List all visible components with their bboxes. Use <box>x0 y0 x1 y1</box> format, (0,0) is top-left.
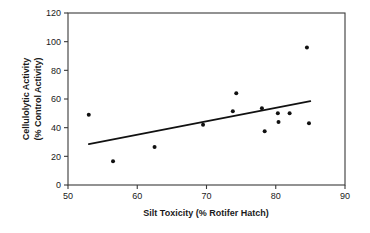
plot-area-background <box>68 13 345 185</box>
y-tick-label: 120 <box>46 8 61 18</box>
scatter-point <box>277 120 281 124</box>
x-tick-label: 80 <box>271 191 281 201</box>
x-tick-label: 70 <box>201 191 211 201</box>
y-tick-label: 60 <box>51 94 61 104</box>
scatter-point <box>307 121 311 125</box>
y-axis-title-line-2: (% Control Activity) <box>33 57 43 140</box>
scatter-point <box>201 123 205 127</box>
scatter-point <box>263 129 267 133</box>
x-axis-title: Silt Toxicity (% Rotifer Hatch) <box>143 208 268 218</box>
x-tick-label: 90 <box>340 191 350 201</box>
scatter-point <box>276 111 280 115</box>
scatter-point <box>111 159 115 163</box>
scatter-point <box>231 109 235 113</box>
y-tick-label: 100 <box>46 37 61 47</box>
scatter-point <box>305 45 309 49</box>
scatter-point <box>153 145 157 149</box>
scatter-point <box>260 106 264 110</box>
y-axis-title-line-1: Cellulolytic Activity <box>21 58 31 141</box>
y-tick-label: 0 <box>56 180 61 190</box>
x-tick-label: 50 <box>63 191 73 201</box>
scatter-chart-figure: 020406080100120 5060708090 Silt Toxicity… <box>0 0 370 233</box>
y-tick-label: 20 <box>51 152 61 162</box>
y-tick-label: 80 <box>51 66 61 76</box>
scatter-point <box>234 91 238 95</box>
x-tick-label: 60 <box>132 191 142 201</box>
scatter-point <box>288 111 292 115</box>
scatter-point <box>87 113 91 117</box>
y-tick-label: 40 <box>51 123 61 133</box>
